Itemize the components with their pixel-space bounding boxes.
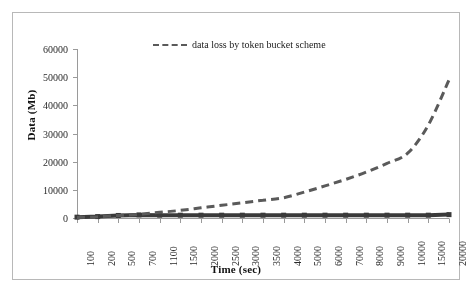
x-tick-label: 20000 bbox=[457, 226, 468, 266]
x-tick-label: 5000 bbox=[312, 226, 323, 266]
y-tick-label: 0 bbox=[13, 213, 68, 224]
y-tick-label: 60000 bbox=[13, 44, 68, 55]
y-tick-label: 50000 bbox=[13, 72, 68, 83]
x-tick-label: 6000 bbox=[333, 226, 344, 266]
x-tick-label: 1500 bbox=[188, 226, 199, 266]
x-tick-label: 10000 bbox=[416, 226, 427, 266]
x-tick-label: 200 bbox=[106, 226, 117, 266]
y-tick-label: 20000 bbox=[13, 156, 68, 167]
x-tick-label: 7000 bbox=[354, 226, 365, 266]
legend-dashed-line-icon bbox=[153, 44, 187, 46]
x-tick-label: 2000 bbox=[209, 226, 220, 266]
y-tick-label: 40000 bbox=[13, 100, 68, 111]
x-tick-label: 3000 bbox=[250, 226, 261, 266]
x-tick-label: 700 bbox=[147, 226, 158, 266]
x-tick-label: 4000 bbox=[292, 226, 303, 266]
legend-entry-label: data loss by token bucket scheme bbox=[192, 39, 326, 50]
x-tick-label: 15000 bbox=[436, 226, 447, 266]
y-tick-label: 30000 bbox=[13, 128, 68, 139]
chart-figure: data loss by token bucket scheme Data (M… bbox=[12, 12, 460, 280]
y-tick-label: 10000 bbox=[13, 184, 68, 195]
x-tick-label: 1100 bbox=[168, 226, 179, 266]
x-tick-label: 9000 bbox=[395, 226, 406, 266]
x-tick-label: 500 bbox=[126, 226, 137, 266]
chart-legend: data loss by token bucket scheme bbox=[153, 39, 326, 50]
x-tick-label: 100 bbox=[85, 226, 96, 266]
x-tick-label: 2500 bbox=[230, 226, 241, 266]
x-tick-label: 8000 bbox=[374, 226, 385, 266]
x-tick-label: 3500 bbox=[271, 226, 282, 266]
y-axis-title: Data (Mb) bbox=[25, 75, 37, 155]
